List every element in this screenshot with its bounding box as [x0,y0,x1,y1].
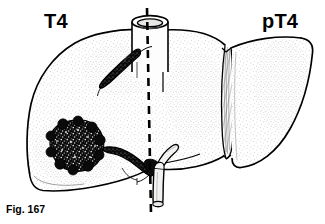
figure-container: T4 pT4 Fig. 167 [0,0,325,224]
falciform-fissure [222,46,234,159]
figure-caption: Fig. 167 [6,203,45,215]
stage-label-pt4: pT4 [262,11,298,31]
liver-illustration [0,0,325,224]
right-lobe [232,37,313,168]
stage-label-t4: T4 [44,11,68,31]
